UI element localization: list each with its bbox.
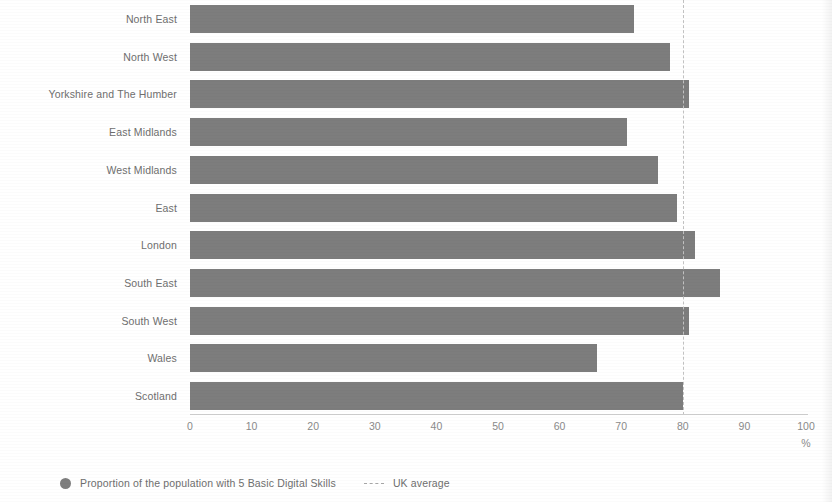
category-label: Scotland xyxy=(0,390,183,402)
x-axis-tick-label: 100 xyxy=(797,419,815,433)
x-axis-unit-label: % xyxy=(801,437,810,449)
bar xyxy=(190,382,683,410)
category-label: Yorkshire and The Humber xyxy=(0,88,183,100)
bar xyxy=(190,5,634,33)
legend-item-proportion: Proportion of the population with 5 Basi… xyxy=(60,477,336,490)
category-label: East Midlands xyxy=(0,126,183,138)
x-axis-tick-label: 20 xyxy=(307,419,319,433)
bars-container xyxy=(190,0,832,415)
x-axis-tick-label: 10 xyxy=(246,419,258,433)
bar xyxy=(190,269,720,297)
x-axis-tick-label: 40 xyxy=(431,419,443,433)
bar xyxy=(190,231,695,259)
bar xyxy=(190,118,627,146)
dashed-line-marker-icon xyxy=(364,483,384,484)
circle-marker-icon xyxy=(60,478,71,489)
uk-average-reference-line xyxy=(683,0,684,415)
bar xyxy=(190,43,670,71)
x-axis-tick-label: 0 xyxy=(187,419,193,433)
x-axis-tick-labels: 0102030405060708090100 xyxy=(0,419,832,437)
x-axis-tick-label: 70 xyxy=(615,419,627,433)
x-axis-tick-label: 90 xyxy=(739,419,751,433)
category-label: Wales xyxy=(0,352,183,364)
bar xyxy=(190,307,689,335)
category-axis-labels: North EastNorth WestYorkshire and The Hu… xyxy=(0,0,183,415)
category-label: North West xyxy=(0,51,183,63)
legend-label-uk-average: UK average xyxy=(393,477,450,490)
bar xyxy=(190,194,677,222)
chart-legend: Proportion of the population with 5 Basi… xyxy=(60,472,450,494)
category-label: South East xyxy=(0,277,183,289)
x-axis-tick-label: 80 xyxy=(677,419,689,433)
bar-chart: North EastNorth WestYorkshire and The Hu… xyxy=(0,0,832,502)
plot-area: North EastNorth WestYorkshire and The Hu… xyxy=(0,0,832,415)
category-label: North East xyxy=(0,13,183,25)
x-axis-tick-label: 60 xyxy=(554,419,566,433)
bar xyxy=(190,80,689,108)
bar xyxy=(190,156,658,184)
legend-label-proportion: Proportion of the population with 5 Basi… xyxy=(80,477,336,490)
bar xyxy=(190,344,597,372)
category-label: West Midlands xyxy=(0,164,183,176)
x-axis-line xyxy=(190,414,808,415)
category-label: South West xyxy=(0,315,183,327)
category-label: East xyxy=(0,202,183,214)
x-axis-tick-label: 50 xyxy=(492,419,504,433)
legend-item-uk-average: UK average xyxy=(364,477,450,490)
category-label: London xyxy=(0,239,183,251)
x-axis-tick-label: 30 xyxy=(369,419,381,433)
